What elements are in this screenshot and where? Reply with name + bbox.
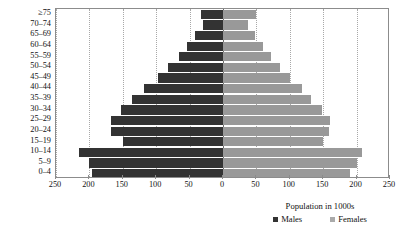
- bar-female: [223, 95, 311, 104]
- bar-male: [132, 95, 223, 104]
- bar-male: [111, 127, 223, 136]
- bar-row: [56, 137, 388, 148]
- y-axis-tick-label: 55–59: [0, 51, 51, 62]
- y-axis-tick-label: 10–14: [0, 146, 51, 157]
- bar-female: [223, 116, 330, 125]
- bar-male: [89, 158, 223, 167]
- y-axis-tick-label: 35–39: [0, 93, 51, 104]
- bar-male: [123, 137, 223, 146]
- x-axis-tick-label: 100: [149, 179, 161, 191]
- bar-female: [223, 127, 329, 136]
- x-axis-tick-label: 50: [251, 179, 259, 191]
- y-axis-tick-label: 5–9: [0, 157, 51, 168]
- y-axis-tick-label: 0–4: [0, 167, 51, 178]
- y-axis-tick-label: ≥75: [0, 8, 51, 19]
- x-axis-tick-label: 250: [383, 179, 395, 191]
- bar-row: [56, 52, 388, 63]
- y-axis-tick-label: 60–64: [0, 40, 51, 51]
- bar-male: [111, 116, 223, 125]
- bar-row: [56, 126, 388, 137]
- bar-male: [203, 20, 223, 29]
- bar-male: [144, 84, 223, 93]
- y-axis-tick-label: 15–19: [0, 136, 51, 147]
- bar-row: [56, 9, 388, 20]
- bar-row: [56, 20, 388, 31]
- y-axis-tick-label: 40–44: [0, 82, 51, 93]
- bar-female: [223, 31, 255, 40]
- bar-row: [56, 30, 388, 41]
- x-axis-tick-label: 50: [184, 179, 192, 191]
- bar-female: [223, 73, 290, 82]
- x-axis-tick-label: 0: [220, 179, 224, 191]
- x-axis-population-labels: 25020015010050050100150200250: [55, 179, 389, 193]
- bar-male: [201, 10, 223, 19]
- bar-female: [223, 10, 256, 19]
- bar-male: [195, 31, 223, 40]
- bar-row: [56, 115, 388, 126]
- bar-male: [187, 42, 223, 51]
- legend-entry: Females: [330, 213, 367, 225]
- bar-male: [79, 148, 223, 157]
- legend-entry: Males: [273, 213, 302, 225]
- bar-female: [223, 105, 322, 114]
- x-axis-tick-label: 250: [49, 179, 61, 191]
- x-axis-tick-label: 100: [283, 179, 295, 191]
- legend-label: Males: [281, 213, 302, 225]
- bar-male: [168, 63, 223, 72]
- y-axis-tick-label: 70–74: [0, 19, 51, 30]
- bar-female: [223, 63, 280, 72]
- population-pyramid-chart: ≥7570–7465–6960–6455–5950–5445–4940–4435…: [0, 0, 411, 238]
- bar-female: [223, 148, 362, 157]
- chart-legend: Population in 1000s MalesFemales: [232, 200, 408, 234]
- bar-male: [179, 52, 223, 61]
- bar-female: [223, 20, 248, 29]
- bar-row: [56, 83, 388, 94]
- bar-row: [56, 147, 388, 158]
- bar-row: [56, 73, 388, 84]
- legend-label: Females: [338, 213, 367, 225]
- bar-male: [92, 169, 223, 178]
- x-axis-tick-label: 200: [82, 179, 94, 191]
- y-axis-tick-label: 45–49: [0, 72, 51, 83]
- bars-layer: [56, 9, 388, 177]
- bar-row: [56, 105, 388, 116]
- bar-female: [223, 84, 302, 93]
- plot-area: [55, 8, 389, 178]
- bar-female: [223, 137, 323, 146]
- legend-title: Population in 1000s: [232, 200, 408, 212]
- legend-swatch-icon: [273, 217, 278, 222]
- y-axis-age-group-labels: ≥7570–7465–6960–6455–5950–5445–4940–4435…: [0, 8, 51, 178]
- bar-row: [56, 41, 388, 52]
- bar-female: [223, 158, 357, 167]
- y-axis-tick-label: 30–34: [0, 104, 51, 115]
- y-axis-tick-label: 25–29: [0, 114, 51, 125]
- bar-row: [56, 62, 388, 73]
- bar-row: [56, 158, 388, 169]
- y-axis-tick-label: 50–54: [0, 61, 51, 72]
- bar-male: [121, 105, 223, 114]
- x-axis-tick-label: 150: [316, 179, 328, 191]
- bar-female: [223, 42, 263, 51]
- bar-female: [223, 52, 271, 61]
- legend-swatch-icon: [330, 217, 335, 222]
- x-axis-tick-label: 200: [349, 179, 361, 191]
- bar-row: [56, 94, 388, 105]
- y-axis-tick-label: 20–24: [0, 125, 51, 136]
- legend-entries: MalesFemales: [232, 213, 408, 225]
- x-axis-tick-label: 150: [116, 179, 128, 191]
- bar-male: [158, 73, 223, 82]
- y-axis-tick-label: 65–69: [0, 29, 51, 40]
- bar-female: [223, 169, 350, 178]
